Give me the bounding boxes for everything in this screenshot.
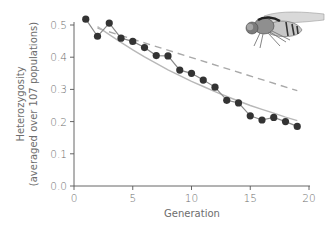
y-axis: 0.00.10.20.30.40.5 (50, 19, 74, 192)
data-point (258, 116, 265, 123)
x-axis-title: Generation (164, 208, 220, 219)
data-point (164, 52, 171, 59)
data-point (82, 16, 89, 23)
data-point (106, 19, 113, 26)
y-tick-label: 0.5 (50, 19, 67, 31)
data-point (200, 76, 207, 83)
x-tick-label: 5 (129, 192, 136, 204)
y-axis-title: Heterozygosity (15, 66, 26, 141)
heterozygosity-chart: 0.00.10.20.30.40.5 05101520 Generation H… (0, 0, 334, 232)
data-point (129, 38, 136, 45)
data-point (176, 66, 183, 73)
data-point (235, 99, 242, 106)
fruit-fly-icon (246, 12, 324, 48)
expected-census-line (98, 28, 298, 90)
data-point (270, 114, 277, 121)
data-point (211, 84, 218, 91)
y-tick-label: 0.3 (50, 83, 67, 95)
data-point (94, 33, 101, 40)
y-tick-label: 0.0 (50, 180, 67, 192)
y-axis-subtitle: (averaged over 107 populations) (28, 22, 39, 187)
data-point (247, 112, 254, 119)
data-point (141, 44, 148, 51)
x-tick-label: 10 (185, 192, 198, 204)
x-tick-label: 0 (71, 192, 78, 204)
data-point (153, 52, 160, 59)
x-tick-label: 15 (244, 192, 257, 204)
y-tick-label: 0.2 (50, 116, 67, 128)
data-point (188, 70, 195, 77)
data-point (282, 118, 289, 125)
y-tick-label: 0.1 (50, 148, 67, 160)
data-point (117, 35, 124, 42)
x-tick-label: 20 (302, 192, 315, 204)
data-point (294, 123, 301, 130)
expected-effective-line (98, 27, 298, 121)
x-axis: 05101520 (71, 186, 316, 204)
y-tick-label: 0.4 (50, 51, 67, 63)
data-point (223, 97, 230, 104)
